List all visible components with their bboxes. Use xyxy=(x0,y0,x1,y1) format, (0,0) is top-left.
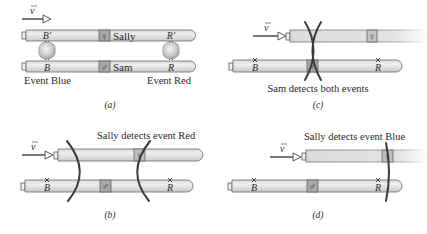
sally-label: Sally xyxy=(113,30,136,42)
sally-rod: ♀ Sally B′ R′ xyxy=(22,30,196,42)
relativity-of-simultaneity-figure: v ♀ Sally B′ R′ ♂ Sam B R xyxy=(0,0,427,234)
panel-d: Sally detects event Blue v ♀ ♂ B R (d xyxy=(228,131,427,221)
panel-d-title: Sally detects event Blue xyxy=(304,131,406,142)
mark-r: R xyxy=(374,182,381,193)
panel-a: v ♀ Sally B′ R′ ♂ Sam B R xyxy=(22,5,196,111)
panel-c-title: Sam detects both events xyxy=(267,83,368,94)
event-red-label: Event Red xyxy=(147,75,192,86)
sally-rod: ♀ xyxy=(286,30,427,42)
velocity-arrow: v xyxy=(253,22,286,40)
mark-r-prime: R′ xyxy=(166,30,176,41)
sam-rod: ♂ B R xyxy=(21,178,193,193)
explosion-red-icon xyxy=(163,41,179,60)
caption-b: (b) xyxy=(104,210,115,221)
sam-label: Sam xyxy=(113,61,133,73)
velocity-arrow: v xyxy=(22,5,51,23)
velocity-label: v xyxy=(280,143,285,154)
female-symbol-icon: ♀ xyxy=(368,31,376,42)
caption-c: (c) xyxy=(313,100,324,111)
mark-r: R xyxy=(167,62,174,73)
velocity-label: v xyxy=(31,141,36,152)
mark-b-prime: B′ xyxy=(43,30,52,41)
panel-b: Sally detects event Red v ♀ ♂ B R xyxy=(21,130,203,221)
velocity-label: v xyxy=(264,22,269,33)
mark-r: R xyxy=(374,62,381,73)
mark-b: B xyxy=(44,182,50,193)
male-symbol-icon: ♂ xyxy=(102,181,110,192)
event-blue-label: Event Blue xyxy=(24,75,71,86)
panel-c: v ♀ ♂ B R Sam detects both events (c) xyxy=(229,22,427,111)
velocity-arrow: v xyxy=(270,143,301,161)
mark-b: B xyxy=(251,182,257,193)
panel-b-title: Sally detects event Red xyxy=(97,130,196,141)
velocity-label: v xyxy=(30,5,35,16)
sally-rod: ♀ xyxy=(302,150,427,162)
mark-r: R xyxy=(166,182,173,193)
sam-rod: ♂ Sam B R xyxy=(22,61,196,74)
velocity-arrow: v xyxy=(22,141,53,159)
explosion-blue-icon xyxy=(39,41,55,60)
mark-b: B xyxy=(252,62,258,73)
male-symbol-icon: ♂ xyxy=(309,181,317,192)
male-symbol-icon: ♂ xyxy=(101,62,109,73)
sam-rod: ♂ B R xyxy=(228,178,402,193)
mark-b: B xyxy=(44,62,50,73)
female-symbol-icon: ♀ xyxy=(101,31,109,42)
caption-d: (d) xyxy=(312,210,323,221)
caption-a: (a) xyxy=(104,100,115,111)
